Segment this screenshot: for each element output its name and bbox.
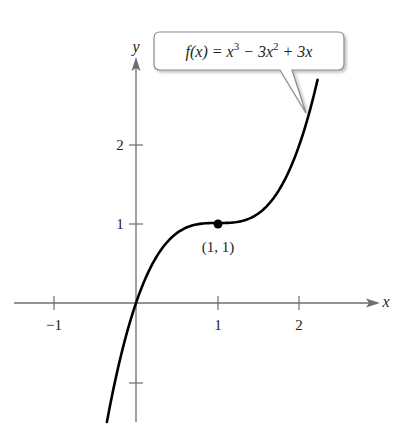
point-label: (1, 1) xyxy=(202,239,235,256)
function-label: f(x) = x3 − 3x2 + 3x xyxy=(186,40,313,61)
y-tick-label-1: 1 xyxy=(116,216,124,232)
point-marker xyxy=(214,220,223,229)
y-axis: 2 1 y xyxy=(116,38,143,422)
x-axis: −1 1 2 x xyxy=(14,293,390,333)
x-axis-label: x xyxy=(381,293,389,310)
function-graph: −1 1 2 x 2 1 y (1, 1) f(x) = x3 − 3x2 + … xyxy=(0,0,405,445)
x-tick-label-neg1: −1 xyxy=(46,317,62,333)
x-tick-label-2: 2 xyxy=(295,317,303,333)
y-tick-label-2: 2 xyxy=(116,137,124,153)
x-tick-label-1: 1 xyxy=(214,317,222,333)
y-axis-label: y xyxy=(130,38,140,56)
